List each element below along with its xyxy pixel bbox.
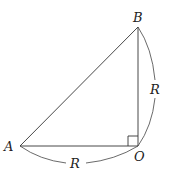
arc-ob-bottom <box>138 98 155 146</box>
label-o: O <box>134 149 145 164</box>
label-r-vertical: R <box>149 82 160 97</box>
label-r-horizontal: R <box>69 156 80 171</box>
arc-ao-left <box>20 146 66 163</box>
arc-ob-top <box>138 27 155 80</box>
right-angle-marker <box>128 136 138 146</box>
label-b: B <box>132 10 143 25</box>
arc-ao-right <box>86 146 138 163</box>
triangle-diagram: B A O R R <box>0 0 171 178</box>
label-a: A <box>3 139 13 154</box>
segment-ab <box>20 27 138 146</box>
